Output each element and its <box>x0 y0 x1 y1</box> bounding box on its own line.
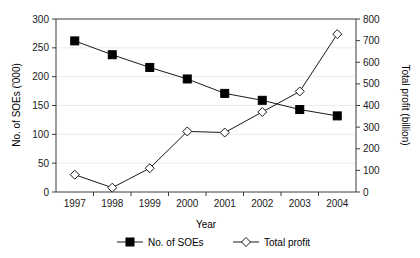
right-axis-ticks: 0100200300400500600700800 <box>356 14 380 198</box>
x-tick-label: 2004 <box>326 198 349 209</box>
right-tick-label: 0 <box>363 187 369 198</box>
left-tick-label: 100 <box>32 129 49 140</box>
right-tick-label: 200 <box>363 143 380 154</box>
right-tick-label: 400 <box>363 100 380 111</box>
data-point-marker <box>258 96 266 104</box>
x-axis-title: Year <box>196 219 217 230</box>
legend-marker <box>126 238 134 246</box>
data-point-marker <box>221 89 229 97</box>
dual-axis-line-chart: 050100150200250300 010020030040050060070… <box>0 0 420 258</box>
data-point-marker <box>146 63 154 71</box>
left-tick-label: 300 <box>32 14 49 25</box>
chart-figure: 050100150200250300 010020030040050060070… <box>0 0 420 258</box>
x-tick-label: 2002 <box>251 198 274 209</box>
x-tick-label: 2003 <box>289 198 312 209</box>
left-axis-title: No. of SOEs ('000) <box>11 63 22 147</box>
legend-label: Total profit <box>264 237 310 248</box>
data-point-marker <box>183 75 191 83</box>
x-tick-label: 2001 <box>214 198 237 209</box>
data-point-marker <box>333 112 341 120</box>
x-tick-label: 1997 <box>64 198 87 209</box>
right-tick-label: 800 <box>363 14 380 25</box>
right-tick-label: 100 <box>363 165 380 176</box>
right-tick-label: 700 <box>363 35 380 46</box>
left-tick-label: 150 <box>32 100 49 111</box>
left-tick-label: 0 <box>43 187 49 198</box>
right-tick-label: 300 <box>363 122 380 133</box>
legend-item-soes: No. of SOEs <box>117 237 204 248</box>
right-tick-label: 500 <box>363 78 380 89</box>
x-tick-label: 1999 <box>139 198 162 209</box>
data-point-marker <box>296 106 304 114</box>
left-tick-label: 50 <box>38 158 50 169</box>
x-tick-label: 1998 <box>101 198 124 209</box>
x-tick-label: 2000 <box>176 198 199 209</box>
right-tick-label: 600 <box>363 57 380 68</box>
data-point-marker <box>71 37 79 45</box>
right-axis-title: Total profit (billion) <box>400 64 411 145</box>
legend-label: No. of SOEs <box>148 237 204 248</box>
left-tick-label: 250 <box>32 42 49 53</box>
left-tick-label: 200 <box>32 71 49 82</box>
data-point-marker <box>108 51 116 59</box>
